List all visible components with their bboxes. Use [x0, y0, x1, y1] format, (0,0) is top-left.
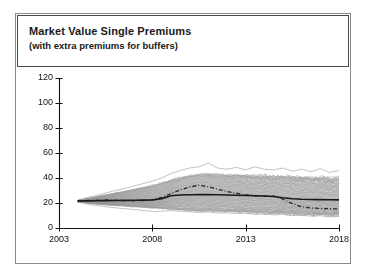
plot-area: 020406080100120 2003200820132018 [17, 68, 349, 262]
y-axis-tick-label: 120 [17, 72, 53, 82]
y-axis-tick-label: 20 [17, 197, 53, 207]
page-title: Market Value Single Premiums [29, 25, 191, 37]
y-axis-tick-label: 100 [17, 97, 53, 107]
y-axis-tick-label: 40 [17, 172, 53, 182]
y-axis-tick-label: 60 [17, 147, 53, 157]
chart-subtitle: (with extra premiums for buffers) [29, 40, 178, 51]
x-axis-tick-label: 2003 [39, 234, 79, 244]
y-axis-tick-label: 0 [17, 222, 53, 232]
x-axis-tick-label: 2018 [319, 234, 359, 244]
fan-chart-canvas [17, 68, 349, 262]
x-axis-tick-label: 2013 [226, 234, 266, 244]
chart-page: Market Value Single Premiums (with extra… [0, 0, 365, 279]
y-axis-tick-label: 80 [17, 122, 53, 132]
x-axis-tick-label: 2008 [132, 234, 172, 244]
title-panel: Market Value Single Premiums (with extra… [17, 15, 349, 67]
